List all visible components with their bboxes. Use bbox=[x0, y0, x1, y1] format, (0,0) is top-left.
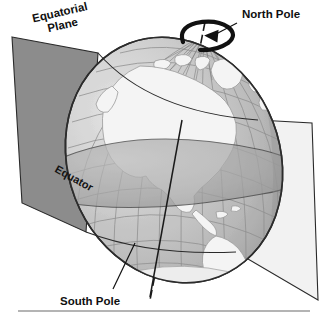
south-pole-label: South Pole bbox=[60, 295, 120, 307]
north-pole-label: North Pole bbox=[242, 8, 300, 20]
globe-diagram-svg: Equatorial Plane North Pole South Pole E… bbox=[0, 0, 322, 319]
rotation-arrowhead bbox=[204, 25, 223, 43]
figure-root: Equatorial Plane North Pole South Pole E… bbox=[0, 0, 322, 319]
equatorial-plane-label: Equatorial Plane bbox=[31, 0, 91, 37]
